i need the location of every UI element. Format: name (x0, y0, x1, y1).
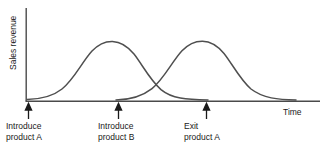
up-arrow-head-icon (25, 103, 31, 110)
event-label-line2: product A (184, 132, 220, 142)
y-axis-title: Sales revenue (8, 15, 18, 70)
product-life-cycle-chart: Sales revenue Time Introduce product A I… (0, 0, 326, 148)
event-label-line2: product B (98, 132, 135, 142)
marker-exit-product-a (203, 103, 209, 119)
marker-introduce-product-a (25, 103, 31, 119)
curve-product-a (27, 41, 208, 100)
event-label-introduce-product-b: Introduce product B (98, 121, 135, 142)
event-label-introduce-product-a: Introduce product A (6, 121, 42, 142)
x-axis-title: Time (283, 107, 302, 117)
event-label-exit-product-a: Exit product A (184, 121, 220, 142)
up-arrow-head-icon (203, 103, 209, 110)
event-label-line2: product A (6, 132, 42, 142)
event-label-line1: Introduce (6, 121, 42, 131)
marker-introduce-product-b (115, 103, 121, 119)
event-label-line1: Introduce (98, 121, 134, 131)
curve-product-b (116, 41, 296, 100)
up-arrow-head-icon (115, 103, 121, 110)
chart-canvas: Sales revenue Time Introduce product A I… (0, 0, 326, 148)
event-label-line1: Exit (184, 121, 199, 131)
